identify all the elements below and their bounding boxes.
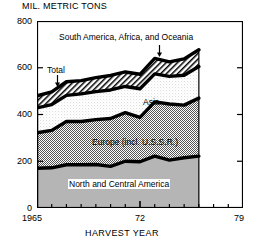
y-tick-label-800: 800: [2, 16, 32, 26]
series-label-europe: Europe (incl. U.S.S.R.): [92, 137, 178, 147]
south-america-pointer-arrow-icon: [156, 45, 163, 57]
series-label-south-america: South America, Africa, and Oceania: [59, 32, 193, 42]
y-tick-label-0: 0: [2, 203, 32, 213]
x-tick-label-1965: 1965: [22, 213, 42, 223]
series-label-asia: Asia: [143, 97, 160, 107]
y-axis-title: MIL. METRIC TONS: [22, 1, 107, 11]
series-label-north-america: North and Central America: [68, 179, 170, 189]
x-tick-label-79: 79: [234, 213, 244, 223]
total-pointer-arrow-icon: [54, 75, 61, 87]
plot-area: South America, Africa, and Oceania Total…: [37, 21, 243, 208]
y-tick-label-400: 400: [2, 109, 32, 119]
x-tick-label-72: 72: [135, 213, 145, 223]
chart-figure: MIL. METRIC TONS 800 600 400 200 0: [0, 0, 254, 247]
y-tick-label-600: 600: [2, 62, 32, 72]
series-label-total: Total: [47, 65, 65, 75]
y-tick-label-200: 200: [2, 156, 32, 166]
x-axis-title: HARVEST YEAR: [85, 228, 159, 238]
